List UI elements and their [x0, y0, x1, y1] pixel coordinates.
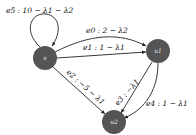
edge-e1: [57, 52, 146, 58]
node-label-u1: u1: [154, 47, 162, 54]
node-u1: u1: [146, 39, 170, 63]
graph-diagram: e5 : 10 − λ1 − λ2 e0 : 2 − λ2 e1 : 1 − λ…: [0, 0, 196, 135]
edge-label-e5: e5 : 10 − λ1 − λ2: [6, 6, 73, 15]
edge-label-e4: e4 : 1 − λ1: [146, 99, 188, 108]
edge-e5: [30, 14, 58, 47]
node-s: s: [33, 46, 57, 70]
edge-label-e2: e2 : −5 − λ1: [65, 68, 107, 107]
node-label-s: s: [43, 54, 46, 61]
node-u2: u2: [102, 110, 126, 134]
edge-label-e1: e1 : 1 − λ1: [83, 43, 125, 52]
node-label-u2: u2: [110, 118, 118, 125]
edge-label-e0: e0 : 2 − λ2: [86, 26, 128, 35]
